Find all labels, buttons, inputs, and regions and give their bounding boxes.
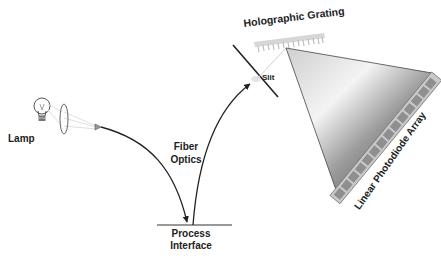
- lightbulb-icon: [34, 98, 50, 121]
- fiber-label-line1: Fiber: [166, 141, 206, 152]
- diagram-canvas: [0, 0, 441, 258]
- process-label-line2: Interface: [166, 240, 216, 251]
- slit-icon: [233, 45, 278, 97]
- process-interface-label: Process Interface: [166, 228, 216, 251]
- fiber-label-line2: Optics: [166, 154, 206, 165]
- fiber-input-tip: [95, 124, 101, 130]
- slit-label: Slit: [262, 72, 274, 83]
- process-label-line1: Process: [166, 228, 216, 239]
- light-rays: [48, 104, 96, 129]
- fiber-optics-label: Fiber Optics: [166, 141, 206, 165]
- lamp-label: Lamp: [8, 133, 35, 144]
